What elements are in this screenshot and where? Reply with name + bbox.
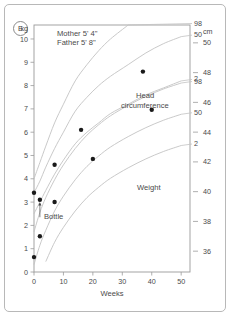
measurement-point: [38, 234, 42, 238]
left-axis-unit-label: kg: [20, 24, 28, 33]
head-circumference-label-line1: Head: [136, 91, 154, 100]
right-axis-tick-label: 44: [203, 128, 211, 137]
centile-label: 2: [194, 139, 198, 148]
left-axis-tick-label: 10: [20, 35, 28, 44]
measurement-point: [38, 198, 42, 202]
measurement-point: [32, 191, 36, 195]
weight-label: Weight: [137, 183, 161, 192]
x-axis-title: Weeks: [100, 289, 123, 298]
mother-height-text: Mother 5' 4": [57, 29, 98, 38]
plot-area-border: [34, 25, 190, 272]
left-axis-tick-label: 5: [24, 151, 28, 160]
measurement-point: [79, 128, 83, 132]
father-height-text: Father 5' 8": [57, 38, 96, 47]
right-axis-tick-label: 50: [203, 38, 211, 47]
right-axis-unit-label: cm: [203, 27, 213, 36]
x-axis-tick-label: 20: [89, 277, 97, 286]
left-axis-tick-label: 8: [24, 81, 28, 90]
centile-curve: [46, 146, 181, 262]
measurement-point: [52, 163, 56, 167]
measurement-point: [32, 255, 36, 259]
left-axis-tick-label: 6: [24, 128, 28, 137]
measurement-point: [52, 200, 56, 204]
left-axis-tick-label: 2: [24, 221, 28, 230]
head-circumference-label-line2: circumference: [121, 101, 169, 110]
right-axis-tick-label: 46: [203, 98, 211, 107]
right-axis-tick-label: 36: [203, 247, 211, 256]
right-axis-tick-label: 42: [203, 157, 211, 166]
left-axis-tick-label: 0: [24, 268, 28, 277]
bottle-annotation-label: Bottle: [44, 212, 63, 221]
measurement-point: [141, 69, 145, 73]
growth-chart-figure: E 01020304050Weeks012345678910kg36384042…: [0, 0, 230, 316]
right-axis-tick-label: 48: [203, 68, 211, 77]
left-axis-tick-label: 7: [24, 104, 28, 113]
left-axis-tick-label: 3: [24, 198, 28, 207]
x-axis-tick-label: 0: [32, 277, 36, 286]
right-axis-tick-label: 38: [203, 217, 211, 226]
x-axis-tick-label: 10: [59, 277, 67, 286]
x-axis-tick-label: 30: [118, 277, 126, 286]
centile-curve: [34, 25, 128, 179]
centile-label: 98: [194, 19, 202, 28]
centile-label: 50: [194, 108, 202, 117]
measurement-point: [91, 157, 95, 161]
right-axis-tick-label: 40: [203, 187, 211, 196]
left-axis-tick-label: 1: [24, 244, 28, 253]
centile-curve: [34, 37, 181, 193]
centile-label: 50: [194, 30, 202, 39]
x-axis-tick-label: 40: [148, 277, 156, 286]
left-axis-tick-label: 4: [24, 174, 28, 183]
chart-canvas: 01020304050Weeks012345678910kg3638404244…: [0, 0, 230, 316]
centile-label: 2: [194, 74, 198, 83]
left-axis-tick-label: 9: [24, 58, 28, 67]
x-axis-tick-label: 50: [177, 277, 185, 286]
